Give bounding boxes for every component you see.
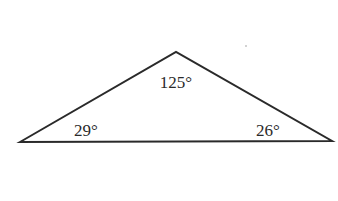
triangle-diagram: 125° 29° 26° bbox=[0, 0, 338, 201]
left-angle-label: 29° bbox=[74, 121, 98, 140]
speck bbox=[245, 45, 247, 47]
right-angle-label: 26° bbox=[256, 121, 280, 140]
triangle bbox=[20, 52, 332, 142]
apex-angle-label: 125° bbox=[160, 73, 192, 92]
